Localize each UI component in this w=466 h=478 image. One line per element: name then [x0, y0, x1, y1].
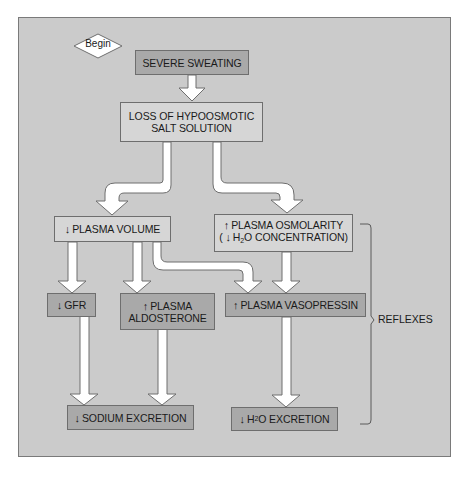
node-vasopressin-text: PLASMA VASOPRESSIN [240, 299, 358, 311]
up-arrow-icon: ↑ [224, 219, 229, 231]
node-plasma-volume: ↓ PLASMA VOLUME [54, 216, 171, 242]
node-gfr-text: GFR [64, 299, 86, 311]
up-arrow-icon: ↑ [143, 300, 148, 312]
arrow-volume-to-aldosterone [123, 242, 151, 293]
reflexes-brace [360, 224, 374, 424]
arrow-loss-to-osmolarity [213, 142, 303, 213]
node-sodium-excretion: ↓ SODIUM EXCRETION [67, 405, 194, 430]
down-arrow-icon: ↓ [57, 299, 62, 311]
node-plasma-aldosterone: ↑PLASMA ALDOSTERONE [120, 293, 215, 330]
node-severe-sweating: SEVERE SWEATING [135, 50, 249, 75]
up-arrow-icon: ↑ [233, 299, 238, 311]
node-loss-line1: LOSS OF HYPOOSMOTIC [129, 110, 254, 122]
reflexes-label: REFLEXES [378, 313, 433, 325]
node-gfr: ↓ GFR [47, 293, 96, 317]
down-arrow-icon: ↓ [75, 412, 80, 424]
node-sodium-excretion-text: SODIUM EXCRETION [82, 412, 187, 424]
begin-label: Begin [78, 38, 118, 49]
arrow-sweating-to-loss [179, 75, 205, 101]
down-arrow-icon: ↓ [240, 413, 245, 425]
node-h2o-excretion-text: O EXCRETION [258, 413, 329, 425]
arrow-volume-to-gfr [58, 242, 86, 293]
h-letter: H [247, 413, 254, 425]
arrow-aldosterone-to-sodium [148, 329, 176, 405]
node-loss-salt-solution: LOSS OF HYPOOSMOTIC SALT SOLUTION [120, 102, 263, 142]
arrow-vasopressin-to-h2o [272, 317, 300, 407]
down-arrow-icon: ↓ [65, 223, 70, 235]
node-plasma-vasopressin: ↑ PLASMA VASOPRESSIN [225, 293, 366, 317]
node-osmolarity-line2: O CONCENTRATION) [244, 231, 348, 243]
down-arrow-icon: ↓ [225, 231, 230, 243]
arrow-gfr-to-sodium [70, 316, 98, 405]
node-aldosterone-line1: PLASMA [150, 300, 192, 312]
node-severe-sweating-text: SEVERE SWEATING [142, 57, 241, 69]
paren-open: ( [219, 231, 222, 243]
node-plasma-osmolarity: ↑PLASMA OSMOLARITY ( ↓H2O CONCENTRATION) [214, 214, 353, 252]
node-plasma-volume-text: PLASMA VOLUME [72, 223, 160, 235]
node-osmolarity-line1: PLASMA OSMOLARITY [231, 219, 343, 231]
arrow-osmolarity-to-vasopressin [272, 252, 300, 293]
node-h2o-excretion: ↓ H2O EXCRETION [231, 407, 338, 431]
node-loss-line2: SALT SOLUTION [129, 122, 254, 134]
arrow-loss-to-volume [96, 142, 171, 215]
node-aldosterone-line2: ALDOSTERONE [128, 312, 206, 324]
